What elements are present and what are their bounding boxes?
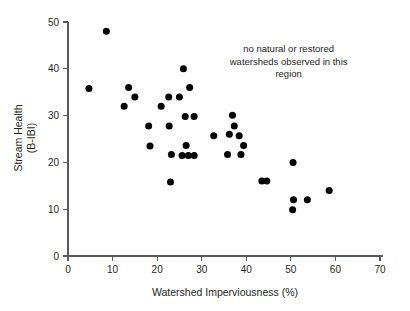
- x-tick-label: 0: [65, 264, 71, 275]
- scatter-plot-figure: 010203040506070 01020304050 Watershed Im…: [0, 0, 410, 311]
- y-axis-title-line1: Stream Health: [12, 104, 24, 171]
- y-tick-label: 50: [48, 17, 60, 28]
- data-point: [125, 84, 132, 91]
- data-point: [326, 187, 333, 194]
- no-data-region-note-line3: region: [275, 68, 301, 79]
- data-point: [179, 152, 186, 159]
- data-point: [121, 103, 128, 110]
- data-point: [290, 196, 297, 203]
- no-data-region-note-line2: watersheds observed in this: [229, 56, 348, 67]
- data-point: [224, 151, 231, 158]
- chart-canvas: 010203040506070 01020304050 Watershed Im…: [0, 0, 410, 311]
- data-point: [168, 151, 175, 158]
- x-tick-label: 10: [107, 264, 119, 275]
- data-point: [103, 28, 110, 35]
- data-point: [176, 93, 183, 100]
- data-point: [210, 132, 217, 139]
- x-tick-label: 60: [330, 264, 342, 275]
- no-data-region-note-line1: no natural or restored: [243, 43, 334, 54]
- data-point: [165, 93, 172, 100]
- data-point: [263, 178, 270, 185]
- data-point: [237, 151, 244, 158]
- data-point: [180, 65, 187, 72]
- x-axis-ticks: 010203040506070: [65, 256, 386, 275]
- data-point: [147, 143, 154, 150]
- y-axis-title: Stream Health (B-IBI): [12, 104, 37, 171]
- data-point: [290, 159, 297, 166]
- data-point: [289, 206, 296, 213]
- y-axis-title-line2: (B-IBI): [25, 123, 37, 153]
- x-tick-label: 50: [285, 264, 297, 275]
- data-point: [145, 122, 152, 129]
- x-axis-title: Watershed Imperviousness (%): [152, 286, 298, 298]
- data-point: [191, 113, 198, 120]
- y-tick-label: 40: [48, 63, 60, 74]
- y-tick-label: 30: [48, 110, 60, 121]
- data-point: [231, 122, 238, 129]
- data-point: [304, 196, 311, 203]
- data-point: [186, 84, 193, 91]
- data-point: [236, 132, 243, 139]
- data-point: [226, 131, 233, 138]
- data-point: [158, 103, 165, 110]
- y-axis-ticks: 01020304050: [48, 17, 68, 262]
- data-point: [229, 112, 236, 119]
- x-tick-label: 70: [374, 264, 386, 275]
- data-point: [240, 142, 247, 149]
- x-tick-label: 30: [196, 264, 208, 275]
- data-point: [85, 85, 92, 92]
- y-tick-label: 10: [48, 204, 60, 215]
- data-point: [191, 152, 198, 159]
- data-point: [131, 93, 138, 100]
- x-tick-label: 40: [241, 264, 253, 275]
- y-tick-label: 0: [53, 251, 59, 262]
- x-tick-label: 20: [152, 264, 164, 275]
- y-tick-label: 20: [48, 157, 60, 168]
- data-point: [182, 113, 189, 120]
- data-point: [167, 179, 174, 186]
- data-point: [183, 142, 190, 149]
- chart-annotation: no natural or restoredwatersheds observe…: [229, 43, 348, 79]
- data-point: [166, 122, 173, 129]
